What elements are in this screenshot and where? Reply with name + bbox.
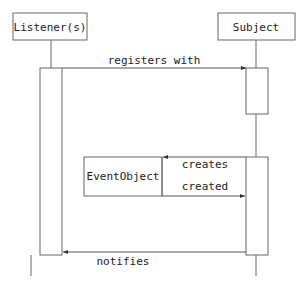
message-creates-label: creates (182, 158, 228, 171)
eventobject-label: EventObject (87, 170, 160, 183)
participant-listener: Listener(s) (13, 13, 87, 40)
listener-activation (40, 68, 62, 255)
participant-subject: Subject (218, 13, 295, 40)
message-notifies-label: notifies (97, 255, 150, 268)
participant-listener-label: Listener(s) (14, 21, 87, 34)
participant-subject-label: Subject (233, 21, 279, 34)
subject-activation-1 (246, 68, 268, 114)
subject-activation-2 (246, 157, 268, 255)
message-registers-label: registers with (108, 54, 201, 67)
message-created-label: created (182, 180, 228, 193)
sequence-diagram: Listener(s) Subject registers with Event… (0, 0, 304, 288)
